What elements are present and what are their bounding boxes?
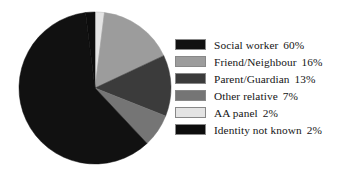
legend-label: Social worker — [214, 39, 278, 51]
legend-swatch-identity-not-known — [175, 124, 206, 135]
legend-value: 13% — [295, 73, 316, 85]
legend-value: 2% — [307, 124, 322, 136]
legend-label: Parent/Guardian — [214, 73, 290, 85]
legend-item[interactable]: AA panel2% — [175, 104, 335, 121]
legend-item[interactable]: Social worker60% — [175, 36, 335, 53]
legend-label: Identity not known — [214, 124, 302, 136]
pie-chart-svg — [17, 10, 173, 166]
legend-text-social-worker: Social worker60% — [214, 39, 304, 51]
legend-text-aa-panel: AA panel2% — [214, 107, 278, 119]
legend-value: 7% — [283, 90, 298, 102]
legend-item[interactable]: Other relative7% — [175, 87, 335, 104]
legend-swatch-parent-guardian — [175, 73, 206, 84]
legend-text-parent-guardian: Parent/Guardian13% — [214, 73, 316, 85]
legend-value: 2% — [263, 107, 278, 119]
legend-swatch-aa-panel — [175, 107, 206, 118]
legend-item[interactable]: Parent/Guardian13% — [175, 70, 335, 87]
legend-swatch-friend-neighbour — [175, 56, 206, 67]
legend-label: Other relative — [214, 90, 278, 102]
legend-item[interactable]: Identity not known2% — [175, 121, 335, 138]
legend-text-identity-not-known: Identity not known2% — [214, 124, 322, 136]
legend-swatch-other-relative — [175, 90, 206, 101]
chart-legend: Social worker60% Friend/Neighbour16% Par… — [175, 36, 335, 138]
legend-label: AA panel — [214, 107, 258, 119]
legend-item[interactable]: Friend/Neighbour16% — [175, 53, 335, 70]
legend-value: 60% — [283, 39, 304, 51]
pie-slice-group — [19, 12, 171, 164]
pie-chart-figure: Social worker60% Friend/Neighbour16% Par… — [0, 0, 337, 171]
legend-text-other-relative: Other relative7% — [214, 90, 298, 102]
pie-chart-area — [17, 10, 173, 166]
legend-swatch-social-worker — [175, 39, 206, 50]
legend-value: 16% — [302, 56, 323, 68]
legend-label: Friend/Neighbour — [214, 56, 297, 68]
legend-text-friend-neighbour: Friend/Neighbour16% — [214, 56, 323, 68]
